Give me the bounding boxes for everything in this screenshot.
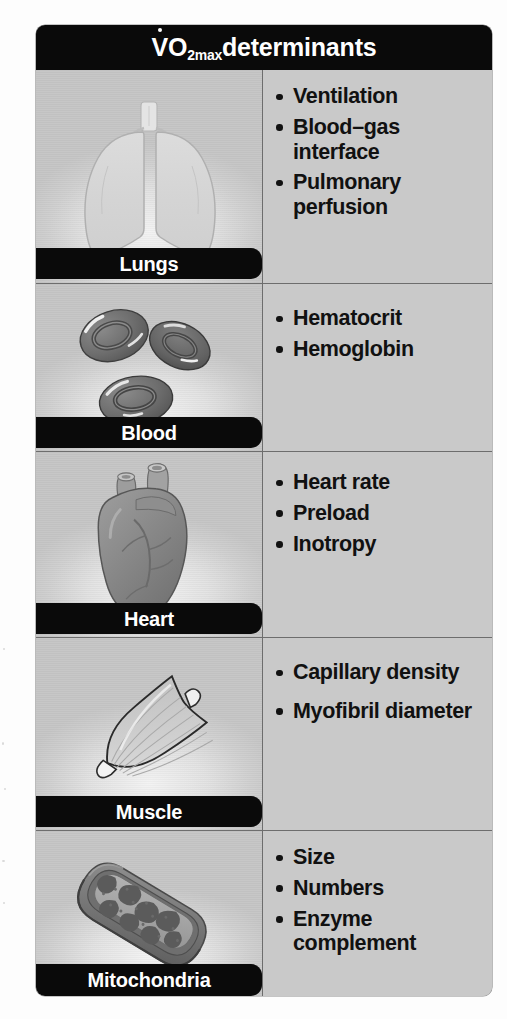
- row-label-text: Lungs: [120, 254, 179, 274]
- scan-artifact: [3, 648, 5, 650]
- list-item: Blood–gas interface: [274, 115, 488, 165]
- table-row: Blood Hematocrit Hemoglobin: [36, 283, 492, 451]
- row-text-cell: Hematocrit Hemoglobin: [262, 284, 492, 451]
- list-item: Inotropy: [274, 532, 488, 557]
- title-o: O: [168, 35, 187, 60]
- list-item: Numbers: [274, 876, 488, 901]
- row-text-cell: Capillary density Myofibril diameter: [262, 638, 492, 830]
- scan-artifact: [2, 742, 4, 745]
- list-item: Size: [274, 845, 488, 870]
- row-image-cell: Muscle: [36, 638, 262, 830]
- list-item: Heart rate: [274, 470, 488, 495]
- table-header: VO2max determinants: [36, 25, 492, 70]
- row-label-text: Muscle: [116, 802, 183, 822]
- list-item: Pulmonary perfusion: [274, 170, 488, 220]
- row-label-text: Heart: [124, 609, 174, 629]
- vo2max-determinants-table: VO2max determinants: [36, 25, 492, 996]
- page-title: VO2max determinants: [152, 35, 377, 60]
- title-suffix: determinants: [222, 35, 377, 60]
- title-subscript: 2max: [187, 48, 222, 62]
- bullet-list: Ventilation Blood–gas interface Pulmonar…: [274, 84, 488, 226]
- list-item: Myofibril diameter: [274, 699, 488, 724]
- bullet-list: Heart rate Preload Inotropy: [274, 470, 488, 562]
- row-label-text: Blood: [121, 423, 177, 443]
- list-item: Capillary density: [274, 660, 488, 685]
- list-item: Preload: [274, 501, 488, 526]
- v-dot-overscore: V: [152, 35, 168, 60]
- row-label: Heart: [36, 603, 262, 634]
- list-item: Ventilation: [274, 84, 488, 109]
- table-row: Mitochondria Size Numbers Enzyme complem…: [36, 830, 492, 996]
- list-item: Enzyme complement: [274, 907, 488, 957]
- row-text-cell: Size Numbers Enzyme complement: [262, 831, 492, 996]
- row-image-cell: Blood: [36, 284, 262, 451]
- table-row: Muscle Capillary density Myofibril diame…: [36, 637, 492, 830]
- row-image-cell: Mitochondria: [36, 831, 262, 996]
- list-item: Hematocrit: [274, 306, 488, 331]
- row-label: Mitochondria: [36, 964, 262, 996]
- row-label: Muscle: [36, 796, 262, 827]
- scan-artifact: [3, 902, 5, 904]
- bullet-list: Capillary density Myofibril diameter: [274, 660, 488, 730]
- figure-page: VO2max determinants: [0, 0, 507, 1019]
- row-label-text: Mitochondria: [87, 970, 210, 990]
- row-label: Lungs: [36, 248, 262, 279]
- scan-artifact: [4, 788, 6, 790]
- bullet-list: Size Numbers Enzyme complement: [274, 845, 488, 962]
- bullet-list: Hematocrit Hemoglobin: [274, 306, 488, 368]
- table-row: Heart Heart rate Preload Inotropy: [36, 451, 492, 637]
- row-label: Blood: [36, 417, 262, 448]
- row-text-cell: Heart rate Preload Inotropy: [262, 452, 492, 637]
- row-image-cell: Lungs: [36, 70, 262, 283]
- scan-artifact: [2, 860, 5, 862]
- row-image-cell: Heart: [36, 452, 262, 637]
- table-row: Lungs Ventilation Blood–gas interface Pu…: [36, 70, 492, 283]
- row-text-cell: Ventilation Blood–gas interface Pulmonar…: [262, 70, 492, 283]
- list-item: Hemoglobin: [274, 337, 488, 362]
